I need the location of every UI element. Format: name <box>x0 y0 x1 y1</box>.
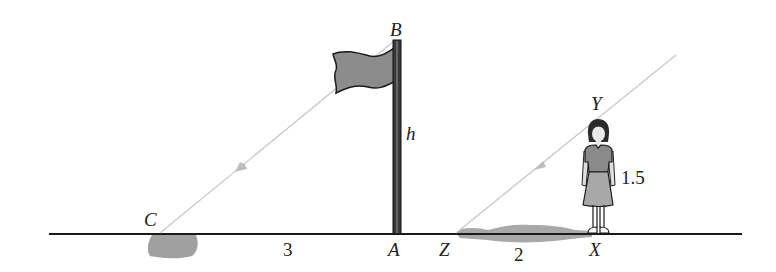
person-figure <box>582 119 615 233</box>
similar-triangles-diagram: B h C 3 A Z 2 X Y 1.5 <box>0 0 776 272</box>
label-person-shadow-length: 2 <box>514 245 524 264</box>
label-pole-height: h <box>406 124 416 143</box>
label-point-c: C <box>144 210 157 229</box>
sun-ray-person <box>456 55 676 233</box>
diagram-canvas <box>0 0 776 272</box>
person-shirt <box>585 145 612 172</box>
person-shoe-right <box>600 227 609 233</box>
person-skirt <box>583 172 613 207</box>
label-point-b: B <box>390 20 402 39</box>
label-pole-shadow-length: 3 <box>283 240 293 259</box>
label-point-y: Y <box>591 94 602 113</box>
label-point-z: Z <box>439 240 450 259</box>
flag-icon <box>333 48 394 93</box>
person-face <box>592 126 606 142</box>
label-point-x: X <box>589 240 601 259</box>
label-point-a: A <box>388 240 400 259</box>
label-person-height: 1.5 <box>621 168 645 187</box>
pole-shadow-tip <box>148 235 198 258</box>
person-shoe-left <box>588 227 597 233</box>
